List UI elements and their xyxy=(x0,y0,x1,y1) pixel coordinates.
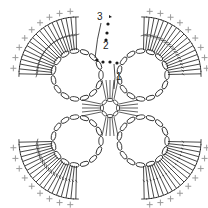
chart-svg: 3 2 1 xyxy=(0,0,208,208)
round-label-2: 2 xyxy=(103,40,109,51)
round-label-3: 3 xyxy=(97,11,103,22)
chain-loops xyxy=(50,48,169,167)
center-ring xyxy=(82,80,138,136)
round-2-tall-stitches xyxy=(19,17,201,199)
crochet-chart-diagram: 3 2 1 xyxy=(0,0,208,208)
round-label-1: 1 xyxy=(116,71,122,82)
